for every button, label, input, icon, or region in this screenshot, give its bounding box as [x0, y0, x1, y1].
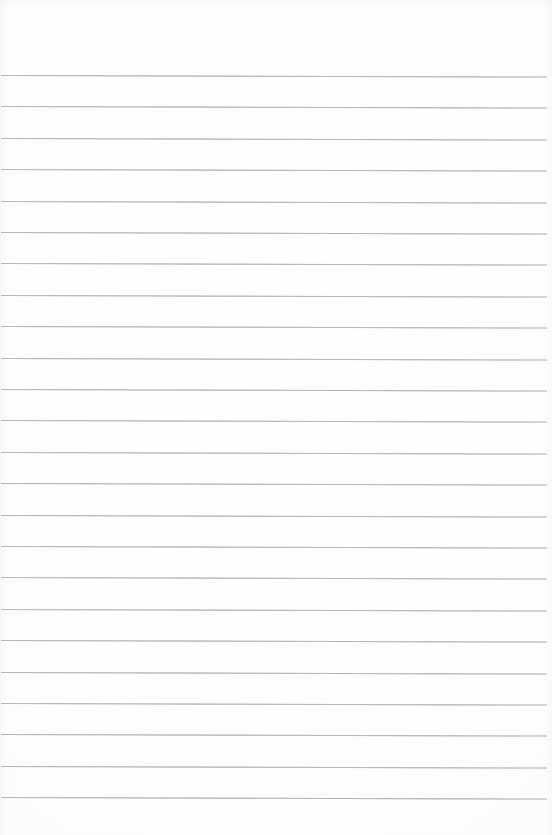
ruled-line-6 — [1, 232, 547, 235]
ruled-line-8 — [1, 295, 547, 298]
ruled-line-3 — [1, 138, 547, 141]
scanned-page — [0, 0, 552, 835]
ruled-line-13 — [1, 452, 547, 455]
ruled-line-10 — [1, 358, 547, 361]
ruled-line-5 — [1, 201, 547, 204]
ruled-line-12 — [1, 420, 547, 423]
header-margin-area — [0, 0, 552, 75]
ruled-line-17 — [1, 577, 547, 580]
ruled-line-19 — [1, 640, 547, 643]
ruled-line-4 — [1, 169, 547, 172]
ruled-line-21 — [1, 703, 547, 706]
ruled-line-18 — [1, 609, 547, 612]
ruled-line-24 — [1, 797, 547, 800]
ruled-line-23 — [1, 766, 547, 769]
ruled-line-22 — [1, 734, 547, 737]
ruled-lines-layer — [0, 0, 552, 835]
ruled-line-7 — [1, 263, 547, 266]
ruled-line-11 — [1, 389, 547, 392]
ruled-line-14 — [1, 483, 547, 486]
ruled-line-20 — [1, 672, 547, 675]
ruled-line-16 — [1, 546, 547, 549]
ruled-line-1 — [1, 75, 547, 78]
ruled-line-9 — [1, 326, 547, 329]
footer-margin-area — [0, 808, 552, 835]
ruled-line-2 — [1, 106, 547, 109]
ruled-line-15 — [1, 515, 547, 518]
